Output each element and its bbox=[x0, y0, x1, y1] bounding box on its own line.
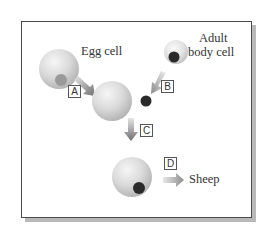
cloning-diagram: Egg cell Adult body cell Sheep A B C D bbox=[0, 0, 268, 232]
arrow-c-icon bbox=[124, 118, 138, 141]
adult-nucleus bbox=[169, 52, 180, 63]
fused-nucleus bbox=[133, 182, 145, 194]
extracted-nucleus bbox=[141, 96, 152, 107]
egg-cell-label: Egg cell bbox=[81, 45, 122, 58]
adult-body-cell bbox=[164, 40, 188, 64]
step-d-label: D bbox=[164, 157, 177, 170]
step-c-label: C bbox=[140, 124, 153, 137]
arrow-d-icon bbox=[163, 173, 184, 187]
diagram-graphics bbox=[0, 0, 268, 232]
step-a-label: A bbox=[68, 85, 81, 98]
adult-label-line2: body cell bbox=[188, 46, 234, 59]
enucleated-egg-cell bbox=[92, 81, 132, 121]
adult-label-line1: Adult bbox=[199, 32, 227, 45]
egg-nucleus bbox=[55, 74, 67, 86]
fused-cell bbox=[112, 157, 152, 197]
step-b-label: B bbox=[161, 80, 174, 93]
egg-cell bbox=[39, 49, 79, 89]
sheep-label: Sheep bbox=[189, 173, 220, 186]
